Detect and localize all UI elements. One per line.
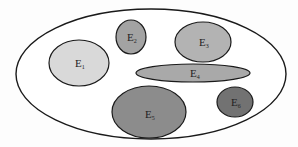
set-e4: E4 bbox=[136, 64, 250, 82]
set-e3: E3 bbox=[175, 22, 231, 62]
set-diagram: E1E2E3E4E5E6 bbox=[0, 0, 298, 147]
diagram-canvas: E1E2E3E4E5E6 bbox=[0, 0, 298, 147]
set-e1: E1 bbox=[49, 40, 109, 86]
set-e5: E5 bbox=[112, 86, 186, 138]
set-e2: E2 bbox=[116, 20, 146, 54]
set-e6: E6 bbox=[217, 87, 253, 117]
